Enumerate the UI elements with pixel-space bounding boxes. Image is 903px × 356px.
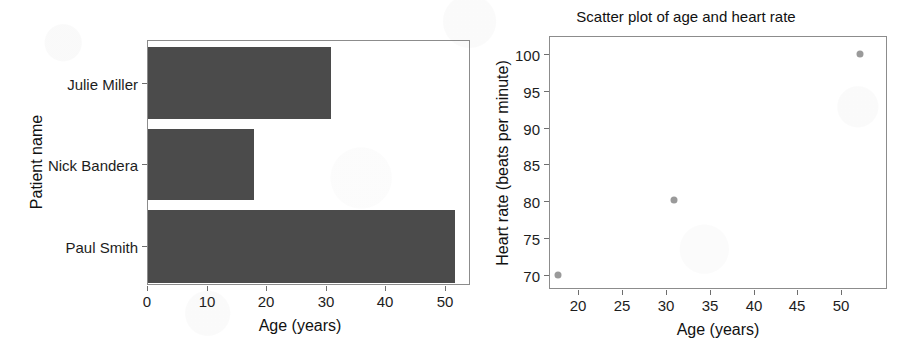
scatter-xtick-label-25: 25 — [614, 297, 631, 314]
bar-ytick-1 — [142, 164, 147, 165]
bar-ytick-2 — [142, 246, 147, 247]
bar-yaxis-title: Patient name — [28, 115, 46, 209]
bar-xtick-50 — [445, 286, 446, 291]
scatter-ytick-75 — [544, 238, 549, 239]
scatter-xtick-35 — [710, 290, 711, 295]
scatter-xtick-label-30: 30 — [658, 297, 675, 314]
bar-xtick-40 — [385, 286, 386, 291]
bar-category-label-paul-smith: Paul Smith — [0, 239, 138, 256]
bar-xtick-label-10: 10 — [199, 293, 216, 310]
bar-julie-miller — [148, 47, 331, 119]
scatter-xtick-50 — [841, 290, 842, 295]
bar-paul-smith — [148, 210, 455, 283]
bar-category-label-nick-bandera: Nick Bandera — [0, 157, 138, 174]
bar-xtick-20 — [266, 286, 267, 291]
bar-category-label-julie-miller: Julie Miller — [0, 76, 138, 93]
bar-xtick-label-0: 0 — [143, 293, 151, 310]
scatter-ytick-95 — [544, 91, 549, 92]
bar-xaxis-title: Age (years) — [259, 317, 342, 335]
scatter-xtick-label-50: 50 — [833, 297, 850, 314]
scatter-xtick-45 — [797, 290, 798, 295]
scatter-xtick-25 — [622, 290, 623, 295]
scatter-xtick-30 — [666, 290, 667, 295]
scatter-xaxis-title: Age (years) — [677, 321, 760, 339]
scatter-xtick-40 — [754, 290, 755, 295]
scatter-point-julie-miller — [671, 197, 678, 204]
scatter-yaxis-title: Heart rate (beats per minute) — [494, 60, 512, 265]
scatter-xtick-label-40: 40 — [746, 297, 763, 314]
scatter-point-paul-smith — [857, 51, 864, 58]
scatter-xtick-label-45: 45 — [789, 297, 806, 314]
bar-xtick-label-50: 50 — [437, 293, 454, 310]
scatter-point-nick-bandera — [555, 272, 562, 279]
scatter-xtick-label-35: 35 — [702, 297, 719, 314]
scatter-ytick-100 — [544, 54, 549, 55]
scatter-ytick-label-70: 70 — [504, 268, 540, 285]
bar-xtick-30 — [326, 286, 327, 291]
scatter-ytick-80 — [544, 201, 549, 202]
scatter-plot-area — [549, 36, 887, 289]
scatter-ytick-90 — [544, 128, 549, 129]
scatter-plot-title: Scatter plot of age and heart rate — [576, 8, 795, 25]
bar-ytick-0 — [142, 83, 147, 84]
bar-xtick-10 — [207, 286, 208, 291]
scatter-ytick-70 — [544, 275, 549, 276]
bar-xtick-label-30: 30 — [318, 293, 335, 310]
scatter-xtick-20 — [578, 290, 579, 295]
scatter-ytick-85 — [544, 164, 549, 165]
bar-xtick-label-40: 40 — [377, 293, 394, 310]
bar-nick-bandera — [148, 129, 254, 200]
bar-chart-figure: Julie Miller Nick Bandera Paul Smith 0 1… — [0, 0, 470, 356]
scatter-chart-figure: Scatter plot of age and heart rate 100 9… — [470, 0, 903, 356]
bar-xtick-label-20: 20 — [258, 293, 275, 310]
bar-xtick-0 — [147, 286, 148, 291]
scatter-xtick-label-20: 20 — [570, 297, 587, 314]
